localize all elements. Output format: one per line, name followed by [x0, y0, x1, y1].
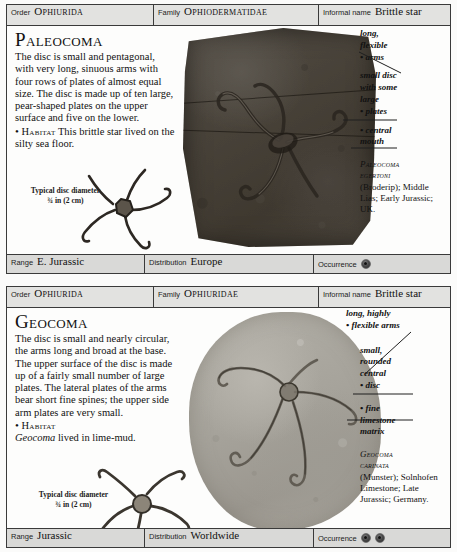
brittle-star-silhouette-icon: [95, 466, 203, 528]
header-field-informal-name: Informal name Brittle star: [318, 287, 450, 307]
informal-name-label: Informal name: [323, 8, 371, 17]
entry-header-row: Order Ophiurida Family Ophiuridae Inform…: [7, 287, 450, 308]
occurrence-dot-icon: [375, 533, 385, 543]
habitat-label: Habitat: [21, 420, 55, 431]
informal-name-value: Brittle star: [375, 5, 422, 17]
range-label: Range: [11, 532, 33, 541]
habitat-text: lived in lime-mud.: [55, 432, 136, 443]
entry-footer-row: Range Jurassic Distribution Worldwide Oc…: [7, 528, 450, 547]
entry-body: Paleocoma The disc is small and pentagon…: [7, 26, 450, 254]
description-column: Paleocoma The disc is small and pentagon…: [15, 30, 175, 150]
header-field-informal-name: Informal name Brittle star: [318, 5, 450, 25]
genus-description: The disc is small and nearly circular, t…: [15, 333, 175, 419]
specimen-caption: Geocoma carinata (Munster); Solnhofen Li…: [360, 449, 446, 505]
occurrence-dot-icon: [361, 259, 371, 269]
range-label: Range: [11, 258, 33, 267]
footer-field-occurrence: Occurrence: [313, 529, 450, 547]
specimen-provenance: (Broderip); Middle Lias; Early Jurassic;…: [360, 182, 446, 216]
distribution-label: Distribution: [149, 532, 187, 541]
order-label: Order: [11, 8, 30, 17]
habitat-bullet-icon: •: [15, 419, 19, 431]
annotation-leader-lines: [307, 312, 447, 452]
specimen-species: egertoni: [360, 170, 446, 181]
family-label: Family: [158, 290, 180, 299]
range-value: Jurassic: [37, 529, 72, 541]
annotation-leader-lines: [337, 28, 447, 168]
habitat-label: Habitat: [21, 126, 55, 137]
specimen-species: carinata: [360, 460, 446, 471]
specimen-provenance: (Munster); Solnhofen Limestone; Late Jur…: [360, 472, 446, 506]
entry-header-row: Order Ophiurida Family Ophiodermatidae I…: [7, 5, 450, 26]
entry-card-geocoma: Order Ophiurida Family Ophiuridae Inform…: [6, 286, 451, 548]
distribution-value: Worldwide: [191, 529, 240, 541]
header-field-family: Family Ophiuridae: [153, 287, 318, 307]
habitat-species: Geocoma: [15, 432, 55, 443]
occurrence-rating: [361, 533, 385, 543]
genus-description: The disc is small and pentagonal, with v…: [15, 51, 175, 125]
occurrence-rating: [361, 259, 371, 269]
header-field-order: Order Ophiurida: [7, 287, 153, 307]
entry-card-paleocoma: Order Ophiurida Family Ophiodermatidae I…: [6, 4, 451, 274]
family-value: Ophiuridae: [184, 287, 238, 299]
footer-field-range: Range Jurassic: [7, 529, 144, 547]
distribution-label: Distribution: [149, 258, 187, 267]
entry-body: Geocoma The disc is small and nearly cir…: [7, 308, 450, 528]
range-value: E. Jurassic: [37, 255, 84, 267]
order-label: Order: [11, 290, 30, 299]
occurrence-label: Occurrence: [318, 260, 357, 269]
genus-heading: Paleocoma: [15, 30, 175, 50]
footer-field-distribution: Distribution Europe: [144, 255, 313, 273]
footer-field-occurrence: Occurrence: [313, 255, 450, 273]
habitat-bullet-icon: •: [15, 125, 19, 137]
family-value: Ophiodermatidae: [184, 5, 267, 17]
informal-name-label: Informal name: [323, 290, 371, 299]
informal-name-value: Brittle star: [375, 287, 422, 299]
fossil-reference-page: Order Ophiurida Family Ophiodermatidae I…: [0, 0, 457, 552]
distribution-value: Europe: [191, 255, 223, 267]
entry-footer-row: Range E. Jurassic Distribution Europe Oc…: [7, 254, 450, 273]
header-field-family: Family Ophiodermatidae: [153, 5, 318, 25]
footer-field-distribution: Distribution Worldwide: [144, 529, 313, 547]
description-column: Geocoma The disc is small and nearly cir…: [15, 312, 175, 444]
order-value: Ophiurida: [34, 287, 83, 299]
footer-field-range: Range E. Jurassic: [7, 255, 144, 273]
order-value: Ophiurida: [34, 5, 83, 17]
habitat-paragraph: • Habitat This brittle star lived on the…: [15, 125, 175, 151]
habitat-paragraph: • HabitatGeocoma lived in lime-mud.: [15, 419, 175, 445]
header-field-order: Order Ophiurida: [7, 5, 153, 25]
brittle-star-silhouette-icon: [79, 166, 184, 252]
genus-heading: Geocoma: [15, 312, 175, 332]
family-label: Family: [158, 8, 180, 17]
occurrence-dot-icon: [361, 533, 371, 543]
occurrence-label: Occurrence: [318, 534, 357, 543]
